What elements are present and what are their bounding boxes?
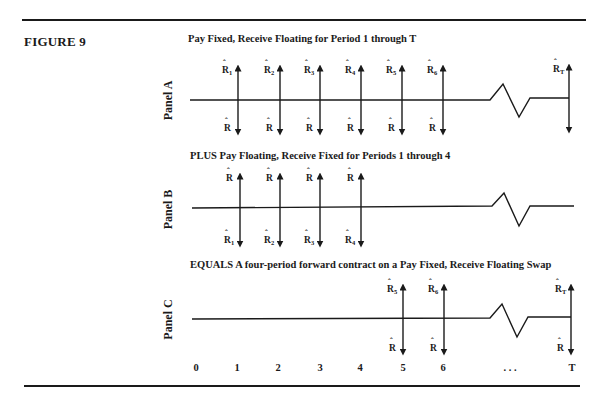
panel-a-up-label-5: R5 [386,66,396,77]
panel-c-up-label-6: R6 [428,285,438,296]
panel-a-down-label-4: R [347,124,354,134]
panel-a-down-label-5: R [388,124,395,134]
panel-a-timeline [190,84,569,117]
axis-tick-0: 0 [193,362,198,373]
panel-a-up-label-T: RT [553,65,564,76]
panel-a-up-label-3: R3 [304,66,314,77]
axis-tick-1: 1 [234,362,239,373]
panel-c-timeline [192,304,571,337]
panel-a-up-label-2: R2 [264,66,274,77]
panel-b-down-label-1: R1 [224,236,234,247]
axis-tick-ellipsis: . . . [503,362,516,373]
panel-c-down-label-5: R [389,344,396,354]
panel-b-down-label-3: R3 [304,236,314,247]
axis-tick-2: 2 [275,362,280,373]
axis-tick-T: T [568,362,575,373]
panel-c-up-label-5: R5 [387,285,397,296]
axis-tick-6: 6 [440,362,445,373]
axis-tick-4: 4 [357,362,362,373]
panel-b-down-label-2: R2 [264,236,274,247]
panel-c-up-label-T: RT [555,285,566,296]
panel-a-up-label-1: R1 [222,66,232,77]
panel-b-timeline [192,193,574,226]
panel-a-down-label-2: R [266,124,273,134]
panel-a-down-label-3: R [306,124,313,134]
panel-b-up-label-3: R [306,174,313,184]
panel-a-down-label-1: R [224,124,231,134]
panel-b-up-label-1: R [226,174,233,184]
axis-tick-3: 3 [317,362,322,373]
panel-a-down-label-6: R [429,124,436,134]
cash-flow-diagram [0,0,596,400]
axis-tick-5: 5 [400,362,405,373]
panel-a-up-label-6: R6 [427,66,437,77]
panel-b-up-label-4: R [347,174,354,184]
panel-b-up-label-2: R [266,174,273,184]
panel-a-up-label-4: R4 [345,66,355,77]
panel-b-down-label-4: R4 [345,236,355,247]
panel-c-down-label-6: R [430,344,437,354]
panel-c-down-label-T: R [557,344,564,354]
